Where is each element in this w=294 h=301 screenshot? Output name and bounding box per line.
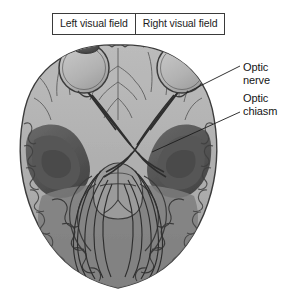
right-visual-field-box: Right visual field (136, 13, 226, 35)
visual-field-legend: Left visual field Right visual field (52, 13, 225, 35)
optic-nerve-label: Optic nerve (243, 61, 270, 86)
optic-chiasm-label: Optic chiasm (243, 92, 277, 117)
visual-pathway-figure: Left visual field Right visual field Opt… (0, 0, 294, 301)
right-eye-pupil (167, 41, 193, 54)
brain-diagram-svg (0, 0, 294, 301)
left-visual-field-box: Left visual field (52, 13, 136, 35)
